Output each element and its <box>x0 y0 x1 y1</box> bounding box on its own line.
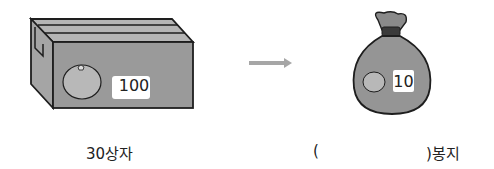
bag-caption: )봉지 <box>426 142 460 163</box>
answer-blank[interactable] <box>324 142 424 162</box>
arrow-right-icon <box>249 58 292 68</box>
box-caption: 30상자 <box>86 142 133 163</box>
bag-icon <box>354 12 431 114</box>
bag-count-label: 10 <box>393 72 414 91</box>
box-count-label: 100 <box>118 76 150 95</box>
answer-paren-open: ( <box>313 142 319 160</box>
box-icon <box>31 19 193 108</box>
